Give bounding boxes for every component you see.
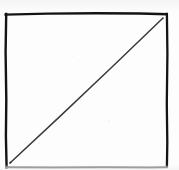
geometric-figure-canvas [0, 0, 179, 170]
diagonal-end-ink-blot [162, 18, 164, 20]
square-top-edge [6, 13, 167, 14]
figure-root [0, 0, 179, 170]
square-right-edge [167, 14, 168, 167]
square-left-edge [6, 14, 7, 167]
diagonal-start-ink-blot [9, 162, 11, 164]
paper-background [0, 0, 179, 170]
